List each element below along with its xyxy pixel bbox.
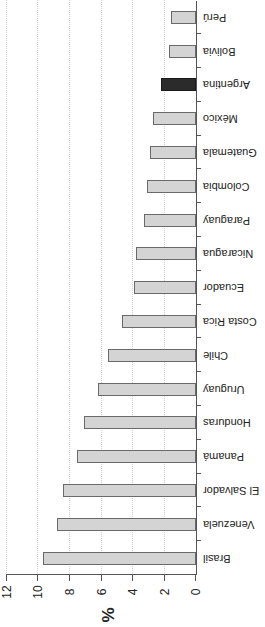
bar-brasil xyxy=(43,552,196,565)
x-tick-label: 8 xyxy=(63,582,77,602)
bar-uruguay xyxy=(98,383,196,396)
bar-méxico xyxy=(153,112,196,125)
bar-ecuador xyxy=(134,281,196,294)
bar-guatemala xyxy=(150,146,196,159)
x-tick xyxy=(38,575,39,581)
x-tick-label: 6 xyxy=(95,582,109,602)
category-label: Honduras xyxy=(203,416,251,429)
x-tick xyxy=(164,575,165,581)
x-tick-label: 2 xyxy=(158,582,172,602)
x-axis-title: % xyxy=(99,607,119,622)
y-tick xyxy=(196,371,201,372)
bar-colombia xyxy=(147,180,196,193)
bar-venezuela xyxy=(57,518,196,531)
category-label: Bolivia xyxy=(203,45,235,58)
category-label: México xyxy=(203,112,238,125)
y-tick xyxy=(196,168,201,169)
x-tick-label: 10 xyxy=(32,582,46,602)
x-tick-label: 4 xyxy=(126,582,140,602)
y-tick xyxy=(196,405,201,406)
category-label: Guatemala xyxy=(203,146,257,159)
y-tick xyxy=(196,135,201,136)
category-label: Panamá xyxy=(203,450,244,463)
x-tick xyxy=(6,575,7,581)
y-tick xyxy=(196,506,201,507)
y-tick xyxy=(196,33,201,34)
bar-argentina xyxy=(161,78,196,91)
category-label: Argentina xyxy=(203,78,250,91)
bar-perú xyxy=(171,11,196,24)
x-tick-label: 12 xyxy=(0,582,14,602)
y-tick xyxy=(196,270,201,271)
category-label: Venezuela xyxy=(203,518,254,531)
category-label: Ecuador xyxy=(203,281,244,294)
x-tick xyxy=(132,575,133,581)
y-tick xyxy=(196,202,201,203)
x-tick-label: 0 xyxy=(190,582,204,602)
category-label: Paraguay xyxy=(203,214,250,227)
bar-el-salvador xyxy=(63,484,196,497)
gridline xyxy=(38,0,39,575)
bar-costa-rica xyxy=(122,315,196,328)
bar-bolivia xyxy=(169,45,196,58)
x-tick xyxy=(196,575,197,581)
category-label: Colombia xyxy=(203,180,249,193)
y-tick xyxy=(196,304,201,305)
category-label: Costa Rica xyxy=(203,315,257,328)
gridline xyxy=(6,0,7,575)
bar-paraguay xyxy=(144,214,196,227)
y-axis-line xyxy=(196,1,197,575)
x-tick xyxy=(101,575,102,581)
category-label: Chile xyxy=(203,349,228,362)
y-tick xyxy=(196,337,201,338)
category-label: Nicaragua xyxy=(203,247,253,260)
bar-panamá xyxy=(78,450,197,463)
category-label: Brasil xyxy=(203,552,231,565)
category-label: Perú xyxy=(203,11,226,24)
bar-honduras xyxy=(84,416,196,429)
x-tick xyxy=(69,575,70,581)
y-tick xyxy=(196,439,201,440)
bar-chile xyxy=(108,349,196,362)
y-tick xyxy=(196,67,201,68)
y-tick xyxy=(196,236,201,237)
y-tick xyxy=(196,473,201,474)
category-label: El Salvador xyxy=(203,484,259,497)
bar-chart: 024681012 % BrasilVenezuelaEl SalvadorPa… xyxy=(0,0,265,627)
category-label: Uruguay xyxy=(203,383,245,396)
y-tick xyxy=(196,540,201,541)
y-tick xyxy=(196,101,201,102)
bar-nicaragua xyxy=(136,247,196,260)
